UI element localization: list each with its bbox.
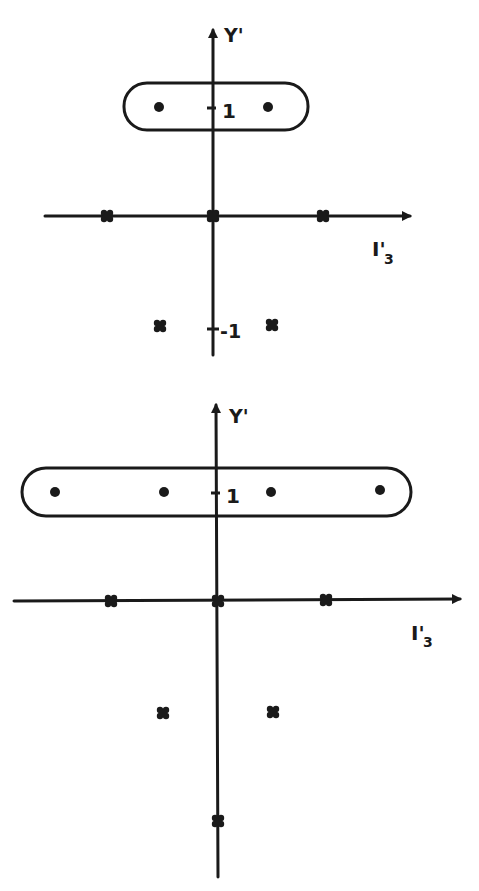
top-tick-label-plus-one: 1	[222, 99, 236, 123]
bottom-x-axis-label: I' 3	[411, 621, 433, 650]
top-cross-point	[154, 320, 166, 332]
top-dot-point	[263, 102, 273, 112]
top-diagram: Y' I' 3 1 -1	[45, 24, 410, 355]
weight-diagrams: Y' I' 3 1 -1 Y' I' 3	[0, 0, 479, 891]
bottom-diagram: Y' I' 3 1	[14, 405, 460, 877]
bottom-cross-point	[267, 706, 279, 718]
bottom-y-axis	[216, 405, 218, 877]
bottom-tick-label-plus-one: 1	[226, 484, 240, 508]
bottom-x-axis	[14, 599, 460, 601]
top-x-axis-label: I' 3	[372, 237, 394, 267]
bottom-dot-point	[50, 487, 60, 497]
bottom-y-axis-label: Y'	[228, 405, 249, 427]
bottom-dot-point	[266, 487, 276, 497]
top-cross-point	[266, 319, 278, 331]
bottom-cross-point	[157, 707, 169, 719]
top-tick-label-minus-one: -1	[220, 320, 241, 342]
svg-text:3: 3	[384, 251, 394, 267]
bottom-dot-point	[375, 485, 385, 495]
bottom-dot-point	[159, 487, 169, 497]
svg-text:3: 3	[423, 634, 433, 650]
top-y-axis-label: Y'	[223, 24, 244, 46]
top-dot-point	[154, 102, 164, 112]
